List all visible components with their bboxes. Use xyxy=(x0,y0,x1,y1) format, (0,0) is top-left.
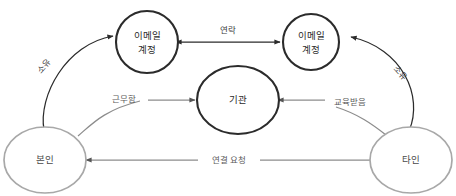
edge-own-left: 소유 xyxy=(35,36,113,130)
node-email-account-right-label-line2: 계정 xyxy=(302,44,320,55)
relationship-graph: 소유 소유 연락 근무함 교육받음 연결 요청 xyxy=(0,0,456,196)
node-organization-label: 기관 xyxy=(229,94,247,105)
edge-educated-at: 교육받음 xyxy=(278,97,386,136)
node-organization[interactable]: 기관 xyxy=(197,66,279,134)
edge-connect-request: 연결 요청 xyxy=(86,152,385,168)
edge-works-at-label: 근무함 xyxy=(112,94,136,104)
node-email-account-left-label-line2: 계정 xyxy=(138,44,156,55)
edge-contact: 연락 xyxy=(176,25,280,43)
diagram-canvas: 소유 소유 연락 근무함 교육받음 연결 요청 xyxy=(0,0,456,196)
node-email-account-right-label-line1: 이메일 xyxy=(298,30,325,41)
node-email-account-right-shape[interactable] xyxy=(283,14,339,70)
node-email-account-left[interactable]: 이메일 계정 xyxy=(116,11,178,73)
edge-connect-request-label: 연결 요청 xyxy=(212,155,247,165)
edge-educated-at-curve xyxy=(336,107,386,135)
node-self[interactable]: 본인 xyxy=(4,127,86,193)
edge-educated-at-label: 교육받음 xyxy=(334,97,366,107)
edge-own-left-label: 소유 xyxy=(35,56,53,75)
node-email-account-right[interactable]: 이메일 계정 xyxy=(283,14,339,70)
node-self-label: 본인 xyxy=(36,154,54,165)
node-other-label: 타인 xyxy=(402,154,420,165)
node-email-account-left-shape[interactable] xyxy=(116,11,178,73)
node-other[interactable]: 타인 xyxy=(370,127,452,193)
node-email-account-left-label-line1: 이메일 xyxy=(134,30,161,41)
edge-contact-label: 연락 xyxy=(220,25,236,35)
edge-works-at-curve xyxy=(78,101,140,136)
edge-works-at: 근무함 xyxy=(78,94,195,137)
